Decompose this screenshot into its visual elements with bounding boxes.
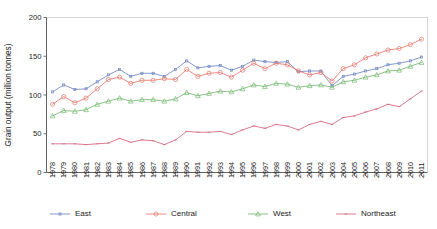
- x-tick-label: 1998: [272, 162, 281, 178]
- series-west: [50, 60, 424, 118]
- x-tick-label: 1981: [82, 162, 91, 178]
- legend-label: East: [75, 209, 92, 218]
- y-axis-ticks: 050100150200: [29, 13, 47, 177]
- y-tick-label: 0: [37, 168, 41, 177]
- x-tick-label: 1996: [249, 162, 258, 178]
- x-tick-label: 2001: [305, 162, 314, 178]
- x-tick-label: 1985: [126, 162, 135, 178]
- x-tick-label: 2011: [417, 163, 426, 178]
- x-tick-label: 2009: [395, 162, 404, 178]
- x-tick-label: 2002: [316, 162, 325, 178]
- series-line: [53, 57, 422, 92]
- x-tick-label: 1986: [138, 162, 147, 178]
- x-tick-label: 1994: [227, 162, 236, 178]
- x-axis-ticks: 1978197919801981198219831984198519861987…: [48, 162, 426, 178]
- x-tick-label: 1979: [59, 162, 68, 178]
- series-northeast: [51, 91, 423, 144]
- x-tick-label: 1993: [216, 162, 225, 178]
- y-tick-label: 150: [29, 52, 42, 61]
- x-tick-label: 1991: [193, 162, 202, 178]
- x-tick-label: 1989: [171, 162, 180, 178]
- x-tick-label: 1978: [48, 162, 57, 178]
- chart-canvas: Grain output (million tonnes) 0501001502…: [0, 0, 437, 229]
- legend-item-central[interactable]: Central: [146, 209, 197, 218]
- legend-label: West: [273, 209, 292, 218]
- y-tick-label: 200: [29, 13, 42, 22]
- legend-item-northeast[interactable]: Northeast: [336, 209, 396, 218]
- y-tick-label: 50: [33, 129, 41, 138]
- x-tick-label: 2007: [372, 162, 381, 178]
- x-tick-label: 2000: [294, 162, 303, 178]
- x-tick-label: 1984: [115, 162, 124, 178]
- x-tick-label: 1983: [104, 162, 113, 178]
- x-tick-label: 1992: [205, 162, 214, 178]
- x-tick-label: 2010: [406, 162, 415, 178]
- y-axis-title: Grain output (million tonnes): [4, 43, 13, 146]
- x-tick-label: 2003: [328, 162, 337, 178]
- x-tick-label: 2006: [361, 162, 370, 178]
- series-central: [50, 37, 423, 106]
- chart-legend: EastCentralWestNortheast: [50, 209, 396, 218]
- x-tick-label: 2004: [339, 162, 348, 178]
- plot-area-frame: [47, 18, 428, 173]
- x-tick-label: 2008: [384, 162, 393, 178]
- x-tick-label: 2005: [350, 162, 359, 178]
- series-layer: [50, 37, 424, 145]
- legend-label: Central: [171, 209, 197, 218]
- x-tick-label: 1995: [238, 162, 247, 178]
- legend-item-west[interactable]: West: [248, 209, 292, 218]
- series-east: [51, 56, 422, 93]
- x-tick-label: 1990: [182, 162, 191, 178]
- y-tick-label: 100: [29, 91, 42, 100]
- x-tick-label: 1988: [160, 162, 169, 178]
- x-tick-label: 1997: [261, 162, 270, 178]
- legend-label: Northeast: [361, 209, 396, 218]
- x-tick-label: 1980: [70, 162, 79, 178]
- x-tick-label: 1999: [283, 162, 292, 178]
- grain-output-line-chart: Grain output (million tonnes) 0501001502…: [0, 0, 437, 229]
- x-tick-label: 1982: [93, 162, 102, 178]
- x-tick-label: 1987: [149, 162, 158, 178]
- legend-item-east[interactable]: East: [50, 209, 92, 218]
